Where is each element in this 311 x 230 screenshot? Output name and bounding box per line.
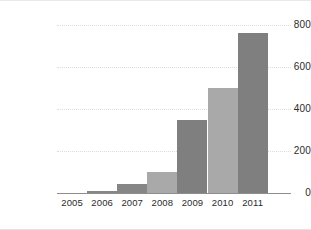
- plot-area: 800 600 400 200 0 2005 2006 2007 2008 20…: [0, 1, 311, 230]
- xtick-label-2006: 2006: [87, 197, 117, 209]
- xtick-label-2008: 2008: [147, 197, 177, 209]
- bar-2008: [147, 172, 177, 193]
- xtick-label-2007: 2007: [117, 197, 147, 209]
- bar-2011: [238, 33, 268, 193]
- bar-2007: [117, 184, 147, 194]
- x-axis-line: [57, 193, 291, 194]
- bars-layer: [57, 1, 268, 193]
- xtick-label-2011: 2011: [238, 197, 268, 209]
- xtick-label-2009: 2009: [177, 197, 207, 209]
- xtick-label-2005: 2005: [57, 197, 87, 209]
- x-axis-labels: 2005 2006 2007 2008 2009 2010 2011: [57, 197, 268, 211]
- ytick-label-400: 400: [264, 104, 311, 114]
- xtick-label-2010: 2010: [208, 197, 238, 209]
- bar-chart-figure: 800 600 400 200 0 2005 2006 2007 2008 20…: [0, 0, 311, 230]
- ytick-label-800: 800: [264, 20, 311, 30]
- ytick-label-200: 200: [264, 146, 311, 156]
- bar-2010: [208, 88, 238, 193]
- ytick-label-600: 600: [264, 62, 311, 72]
- bar-2009: [177, 120, 207, 194]
